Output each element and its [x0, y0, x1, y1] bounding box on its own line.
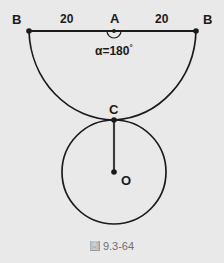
vertex-dot-a: [112, 29, 116, 33]
label-point-c: C: [109, 103, 118, 116]
label-segment-left-length: 20: [60, 13, 73, 25]
label-angle-degree-symbol: °: [129, 43, 132, 52]
label-point-a: A: [110, 12, 119, 25]
label-angle-alpha: α=180°: [95, 44, 133, 57]
caption-number: 9.3-64: [103, 240, 134, 252]
label-point-o: O: [121, 174, 131, 187]
caption-cjk-glyph: 圖: [90, 241, 100, 251]
label-angle-alpha-value: α=180: [95, 44, 129, 58]
label-point-b-right: B: [203, 13, 212, 26]
vertex-dot-c: [111, 117, 117, 123]
geometry-canvas: [0, 0, 224, 263]
vertex-dot-o: [111, 169, 117, 175]
vertex-dot-b-left: [26, 28, 32, 34]
label-point-b-left: B: [12, 13, 21, 26]
label-segment-right-length: 20: [155, 13, 168, 25]
geometry-figure: B B A C O 20 20 α=180° 圖9.3-64: [0, 0, 224, 263]
vertex-dot-b-right: [193, 28, 199, 34]
figure-caption: 圖9.3-64: [0, 240, 224, 252]
